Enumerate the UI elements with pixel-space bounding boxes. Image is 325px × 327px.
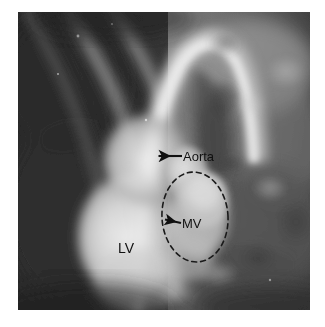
figure-root: Aorta MV LV <box>0 0 325 327</box>
radiograph-image <box>18 12 310 310</box>
radiograph-canvas <box>18 12 310 310</box>
